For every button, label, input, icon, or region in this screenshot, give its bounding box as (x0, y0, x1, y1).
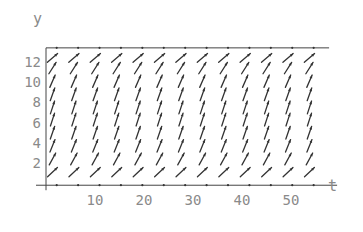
field-arrow-head (245, 140, 248, 143)
field-arrow (222, 101, 227, 114)
top-frame-tick-dot (248, 47, 250, 49)
field-arrow (72, 88, 77, 101)
field-arrow (112, 54, 122, 63)
field-arrow-head (267, 140, 270, 143)
field-arrow-head (245, 113, 248, 116)
field-arrow (307, 126, 312, 139)
field-arrow-head (117, 101, 120, 104)
field-arrow (157, 113, 161, 126)
top-frame-tick-dot (98, 47, 100, 49)
field-arrow (264, 140, 269, 153)
field-arrow (200, 101, 205, 114)
field-arrow (197, 54, 207, 63)
field-arrow-head (202, 126, 205, 129)
field-arrow-head (138, 101, 141, 104)
field-arrow (286, 140, 291, 153)
top-frame-tick-dot (56, 47, 58, 49)
field-arrow-head (52, 126, 55, 129)
field-arrow-head (138, 140, 141, 143)
y-tick-label: 4 (33, 135, 41, 151)
field-arrow (220, 62, 227, 73)
field-arrow (71, 153, 77, 165)
field-arrow (263, 153, 269, 165)
x-tick-label: 30 (185, 192, 202, 208)
field-arrow (70, 62, 77, 73)
field-arrow (243, 75, 248, 87)
field-arrow (222, 126, 227, 139)
field-arrow (115, 126, 120, 139)
y-tick-label: 12 (24, 54, 41, 70)
field-arrow-head (95, 113, 98, 116)
field-arrow-head (52, 88, 55, 91)
field-arrow (265, 101, 270, 114)
field-arrow-head (309, 101, 312, 104)
field-arrow (219, 54, 229, 63)
field-arrow-head (52, 101, 55, 104)
field-arrow (71, 75, 76, 87)
field-arrow (48, 167, 58, 176)
field-arrow (90, 54, 100, 63)
field-arrow (284, 62, 291, 73)
top-frame-tick-dot (270, 47, 272, 49)
top-frame-tick-dot (120, 47, 122, 49)
field-arrow (285, 75, 290, 87)
field-arrow-head (202, 101, 205, 104)
field-arrow (154, 54, 164, 63)
field-arrow-head (224, 126, 227, 129)
field-arrow (283, 167, 293, 176)
field-arrow (221, 75, 226, 87)
field-arrow (114, 88, 119, 101)
field-arrow (221, 140, 226, 153)
field-arrow-head (224, 113, 227, 116)
field-arrow-head (224, 88, 227, 91)
field-arrow (286, 101, 291, 114)
field-arrow-head (266, 101, 269, 104)
field-arrow (136, 126, 141, 139)
field-arrow (49, 153, 55, 165)
field-arrow (136, 88, 141, 101)
field-arrow (286, 88, 291, 101)
x-axis-tick-dot (227, 184, 229, 186)
field-arrow (113, 153, 119, 165)
y-axis-label: y (33, 10, 42, 28)
field-arrow (133, 54, 143, 63)
field-arrow (72, 101, 77, 114)
field-arrow (262, 167, 272, 176)
field-arrow (93, 113, 97, 126)
field-arrow-head (309, 88, 312, 91)
field-arrow (157, 88, 162, 101)
field-arrow (306, 153, 312, 165)
direction-field-plot: 1020304050 24681012 t y (0, 0, 363, 232)
field-arrow (243, 101, 248, 114)
field-arrow (200, 88, 205, 101)
field-arrow-head (245, 101, 248, 104)
field-arrow (157, 126, 162, 139)
field-arrow (93, 75, 98, 87)
field-arrow (157, 140, 162, 153)
x-axis-tick-dot (291, 184, 293, 186)
field-arrow-head (202, 88, 205, 91)
top-frame-tick-dot (77, 47, 79, 49)
y-tick-label: 2 (33, 155, 41, 171)
field-arrow (200, 140, 205, 153)
field-arrow (156, 62, 163, 73)
top-frame-tick-dot (184, 47, 186, 49)
field-arrow (50, 75, 55, 87)
field-arrow-head (95, 101, 98, 104)
field-arrow (307, 113, 311, 126)
field-arrow (240, 54, 250, 63)
field-arrow-head (245, 88, 248, 91)
field-arrow (113, 62, 120, 73)
top-frame-tick-dot (313, 47, 315, 49)
x-axis-tick-dot (77, 184, 79, 186)
field-arrow (179, 88, 184, 101)
field-arrow (72, 113, 76, 126)
field-arrow-head (309, 140, 312, 143)
field-arrow-head (117, 88, 120, 91)
x-axis-tick-dot (98, 184, 100, 186)
field-arrow-head (52, 113, 55, 116)
field-arrow (136, 113, 140, 126)
field-arrow (222, 113, 226, 126)
field-arrow (93, 101, 98, 114)
field-arrow (221, 153, 227, 165)
